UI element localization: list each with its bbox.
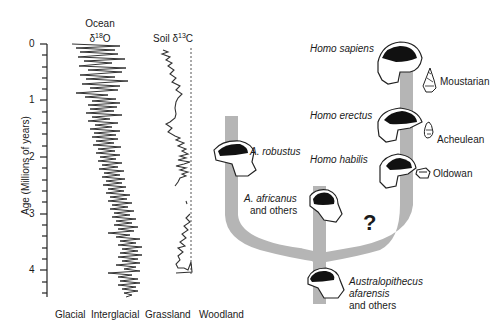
xlabel-woodland: Woodland — [199, 309, 244, 321]
label-homo-habilis: Homo habilis — [310, 154, 368, 166]
label-a-robustus: A. robustus — [250, 146, 301, 158]
label-acheulean: Acheulean — [437, 134, 484, 146]
acheulean-tool-icon — [424, 122, 433, 138]
label-homo-erectus: Homo erectus — [310, 110, 372, 122]
oldowan-tool-icon — [416, 168, 430, 178]
y-axis-label: Age (Millions of years) — [20, 111, 31, 221]
ytick-1: 1 — [29, 94, 35, 106]
label-oldowan: Oldowan — [433, 168, 472, 180]
moustarian-tool-icon — [423, 68, 436, 92]
xlabel-interglacial: Interglacial — [91, 309, 139, 321]
xlabel-grassland: Grassland — [145, 309, 191, 321]
soil-d13c-curve-upper — [162, 50, 190, 186]
ocean-title-line2: δ18O — [80, 30, 120, 45]
label-homo-sapiens: Homo sapiens — [310, 43, 374, 55]
xlabel-glacial: Glacial — [55, 309, 86, 321]
ytick-4: 4 — [29, 264, 35, 276]
label-moustarian: Moustarian — [440, 76, 489, 88]
soil-d13c-curve-lower — [176, 214, 192, 273]
uncertain-question-mark: ? — [363, 212, 376, 234]
soil-title: Soil δ13C — [153, 30, 193, 45]
figure-canvas — [0, 0, 504, 329]
age-axis — [40, 44, 47, 297]
label-afarensis: afarensis — [349, 288, 390, 300]
label-a-africanus-others: and others — [250, 205, 297, 217]
ocean-d18o-curve — [72, 44, 142, 297]
ocean-title-line1: Ocean — [80, 18, 120, 30]
soil-d13c-curve-mid — [186, 201, 187, 204]
label-australopithecus: Australopithecus — [349, 276, 423, 288]
label-afarensis-others: and others — [349, 300, 396, 312]
ytick-0: 0 — [29, 38, 35, 50]
label-a-africanus: A. africanus — [244, 193, 297, 205]
